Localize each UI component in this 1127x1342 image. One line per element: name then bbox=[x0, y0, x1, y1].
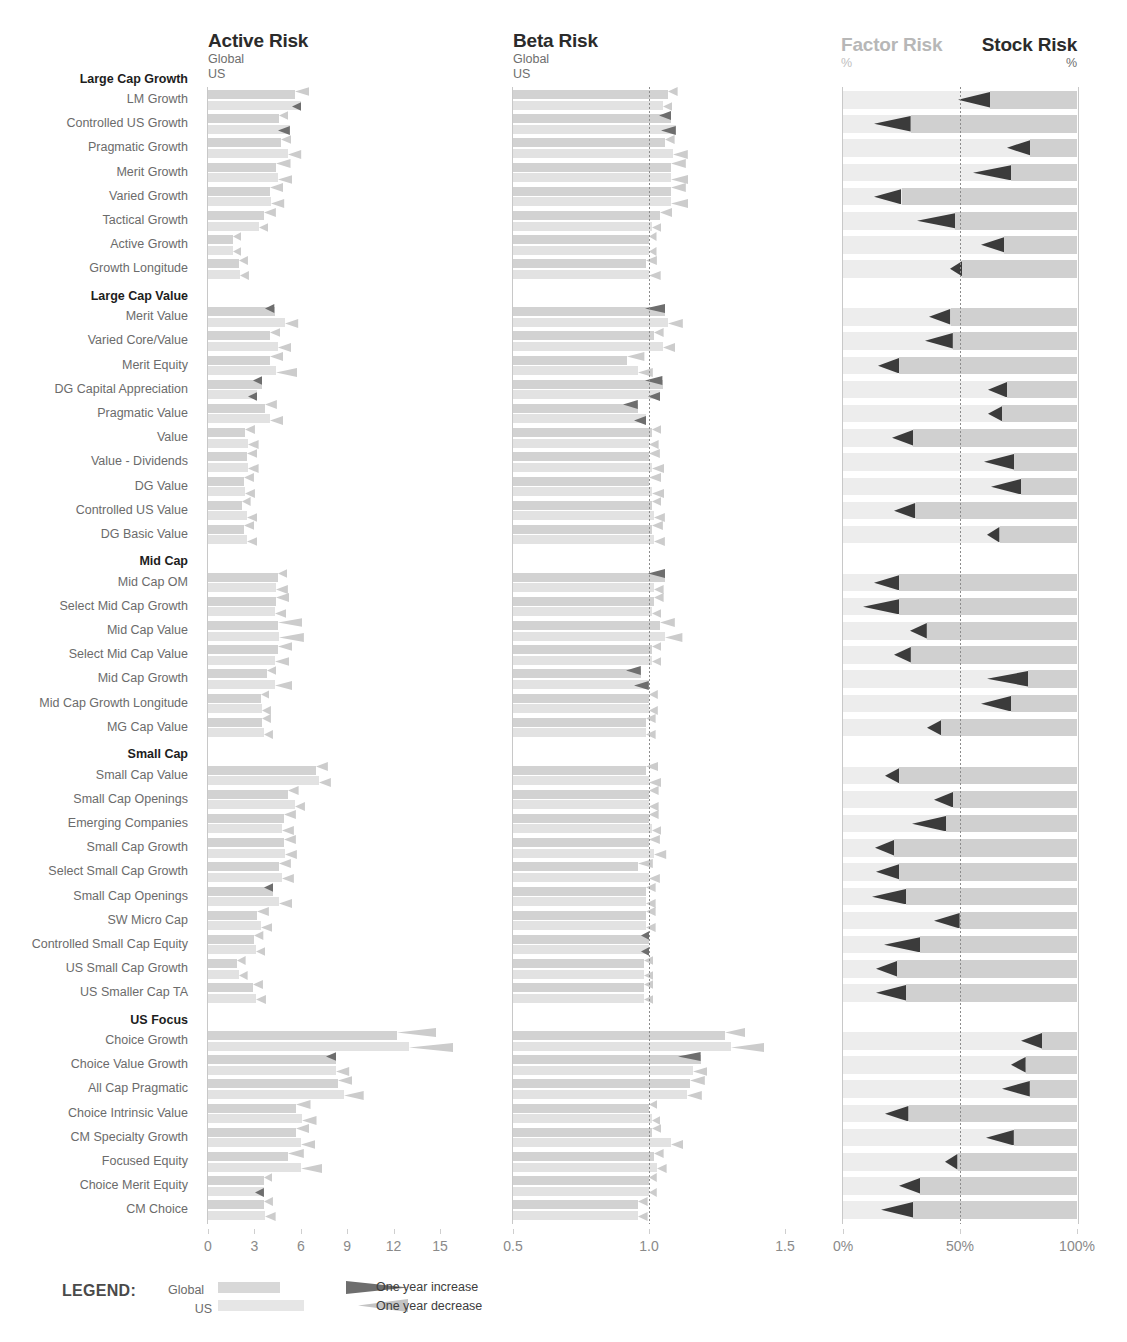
factor-stock-split-marker bbox=[874, 575, 900, 591]
factor-stock-split-marker bbox=[991, 479, 1021, 495]
stock-risk-segment bbox=[1042, 1032, 1077, 1050]
factor-stock-split-marker bbox=[892, 430, 913, 446]
stock-risk-segment bbox=[894, 839, 1077, 857]
factor-stock-split-marker bbox=[945, 1154, 957, 1170]
factor-stock-split-marker bbox=[910, 623, 927, 639]
stock-risk-segment bbox=[960, 912, 1077, 930]
panel-axis-rule bbox=[207, 87, 208, 1224]
stock-risk-segment bbox=[916, 502, 1077, 520]
factor-stock-split-marker bbox=[934, 792, 953, 808]
active-risk-axis-tick-label: 6 bbox=[297, 1238, 305, 1254]
stock-risk-segment bbox=[1002, 405, 1077, 423]
stock-risk-axis-tick bbox=[843, 1229, 844, 1234]
factor-stock-split-marker bbox=[1021, 1033, 1042, 1049]
stock-risk-segment bbox=[953, 791, 1077, 809]
stock-risk-segment bbox=[920, 936, 1077, 954]
active-risk-axis-tick bbox=[394, 1229, 395, 1234]
factor-risk-segment bbox=[843, 526, 1000, 544]
legend-us-label: US bbox=[168, 1302, 212, 1316]
stock-risk-segment bbox=[941, 719, 1077, 737]
factor-stock-split-marker bbox=[981, 237, 1004, 253]
factor-stock-split-marker bbox=[884, 937, 921, 953]
factor-stock-split-marker bbox=[917, 213, 956, 229]
factor-stock-split-marker bbox=[988, 406, 1003, 422]
stock-risk-segment bbox=[899, 598, 1077, 616]
factor-stock-split-marker bbox=[885, 768, 900, 784]
beta-risk-axis-tick bbox=[785, 1229, 786, 1234]
factor-stock-risk-panel bbox=[0, 0, 1127, 1342]
factor-risk-segment bbox=[843, 1032, 1042, 1050]
legend-global-swatch bbox=[218, 1282, 280, 1293]
stock-risk-segment bbox=[897, 960, 1077, 978]
active-risk-axis-tick-label: 9 bbox=[343, 1238, 351, 1254]
factor-stock-split-marker bbox=[874, 116, 911, 132]
stock-risk-segment bbox=[899, 767, 1077, 785]
beta-risk-axis-tick-label: 1.0 bbox=[639, 1238, 658, 1254]
factor-stock-split-marker bbox=[987, 527, 999, 543]
stock-reference-line bbox=[960, 87, 961, 1224]
factor-stock-split-marker bbox=[863, 599, 900, 615]
factor-stock-split-marker bbox=[988, 382, 1007, 398]
active-risk-axis-tick-label: 0 bbox=[204, 1238, 212, 1254]
factor-risk-segment bbox=[843, 1153, 958, 1171]
stock-risk-segment bbox=[1004, 236, 1077, 254]
factor-stock-split-marker bbox=[958, 92, 990, 108]
stock-risk-axis-tick bbox=[1077, 1229, 1078, 1234]
active-risk-axis-tick-label: 15 bbox=[432, 1238, 448, 1254]
beta-risk-axis-tick bbox=[513, 1229, 514, 1234]
factor-stock-split-marker bbox=[874, 189, 902, 205]
stock-risk-segment bbox=[913, 1201, 1077, 1219]
factor-risk-segment bbox=[843, 1056, 1026, 1074]
stock-risk-segment bbox=[913, 429, 1077, 447]
stock-risk-segment bbox=[911, 646, 1077, 664]
active-risk-axis-tick-label: 12 bbox=[386, 1238, 402, 1254]
stock-risk-segment bbox=[953, 332, 1077, 350]
factor-stock-split-marker bbox=[876, 864, 899, 880]
stock-risk-segment bbox=[1007, 381, 1077, 399]
stock-risk-segment bbox=[955, 212, 1077, 230]
factor-stock-split-marker bbox=[899, 1178, 920, 1194]
stock-risk-segment bbox=[899, 357, 1077, 375]
panel-axis-rule bbox=[842, 87, 843, 1224]
stock-risk-segment bbox=[1011, 164, 1077, 182]
stock-risk-segment bbox=[962, 260, 1077, 278]
factor-stock-split-marker bbox=[981, 696, 1011, 712]
active-risk-axis-tick bbox=[208, 1229, 209, 1234]
legend-increase-label: One year increase bbox=[376, 1280, 478, 1294]
stock-risk-segment bbox=[1011, 695, 1077, 713]
factor-stock-split-marker bbox=[885, 1106, 908, 1122]
factor-stock-split-marker bbox=[986, 1130, 1014, 1146]
stock-risk-segment bbox=[902, 188, 1078, 206]
factor-stock-split-marker bbox=[929, 309, 950, 325]
stock-risk-segment bbox=[1014, 453, 1077, 471]
beta-reference-line bbox=[649, 87, 650, 1224]
active-risk-axis-tick-label: 3 bbox=[250, 1238, 258, 1254]
active-risk-axis-tick bbox=[440, 1229, 441, 1234]
stock-risk-segment bbox=[958, 1153, 1077, 1171]
factor-stock-split-marker bbox=[987, 671, 1028, 687]
stock-risk-segment bbox=[920, 1177, 1077, 1195]
factor-stock-split-marker bbox=[1002, 1081, 1030, 1097]
stock-risk-segment bbox=[990, 91, 1077, 109]
factor-stock-split-marker bbox=[1007, 140, 1030, 156]
stock-risk-segment bbox=[909, 1105, 1077, 1123]
stock-risk-segment bbox=[906, 984, 1077, 1002]
stock-risk-segment bbox=[1000, 526, 1077, 544]
factor-stock-split-marker bbox=[876, 961, 897, 977]
stock-risk-segment bbox=[927, 622, 1077, 640]
active-risk-axis-tick bbox=[347, 1229, 348, 1234]
factor-stock-split-marker bbox=[984, 454, 1014, 470]
factor-stock-split-marker bbox=[973, 165, 1012, 181]
factor-stock-split-marker bbox=[912, 816, 946, 832]
panel-axis-rule bbox=[1078, 87, 1079, 1224]
stock-risk-segment bbox=[1028, 670, 1077, 688]
stock-risk-axis-tick-label: 50% bbox=[946, 1238, 974, 1254]
factor-stock-split-marker bbox=[872, 889, 906, 905]
factor-risk-segment bbox=[843, 139, 1030, 157]
active-risk-axis-tick bbox=[301, 1229, 302, 1234]
factor-stock-split-marker bbox=[934, 913, 960, 929]
active-risk-axis-tick bbox=[254, 1229, 255, 1234]
stock-risk-axis-tick bbox=[960, 1229, 961, 1234]
stock-risk-axis-tick-label: 0% bbox=[833, 1238, 853, 1254]
stock-risk-segment bbox=[1021, 478, 1077, 496]
